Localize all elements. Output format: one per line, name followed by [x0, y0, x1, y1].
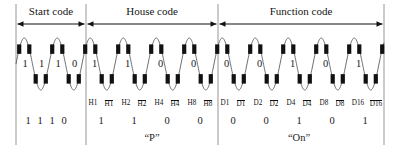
inline-bit-start-code: 0	[72, 59, 77, 70]
decoded-digit-function-code: 0	[261, 116, 271, 127]
burst-marker	[225, 44, 229, 54]
pin-label-D4-inverted: D4	[298, 100, 316, 109]
pin-label-D2-inverted: D2	[265, 100, 283, 109]
inline-bit-start-code: 1	[39, 59, 44, 70]
inline-bit-house-code: 0	[158, 59, 163, 70]
burst-marker	[380, 44, 384, 54]
pin-label-D16-inverted: D16	[367, 100, 385, 109]
decoded-digit-start-code: 0	[59, 116, 69, 127]
burst-marker	[209, 74, 213, 84]
decoded-digit-house-code: 0	[162, 116, 172, 127]
burst-marker	[44, 74, 48, 84]
burst-marker	[149, 44, 153, 54]
pin-label-H8-inverted: H8	[199, 100, 217, 109]
pin-label-D16: D16	[349, 100, 367, 107]
burst-marker	[133, 74, 137, 84]
decoded-digit-function-code: 1	[294, 116, 304, 127]
decoded-digit-start-code: 1	[47, 116, 57, 127]
burst-marker	[100, 74, 104, 84]
burst-marker	[176, 74, 180, 84]
span-arrowhead-start-code-1	[79, 21, 85, 27]
caption-house-code: “P”	[132, 133, 172, 144]
x10-waveform-figure: Start code House code Function code 1110…	[0, 0, 401, 149]
decoded-digit-house-code: 1	[96, 116, 106, 127]
burst-marker	[232, 74, 236, 84]
burst-marker	[341, 74, 345, 84]
inline-bit-function-code: 1	[290, 59, 295, 70]
burst-marker	[275, 74, 279, 84]
burst-marker	[215, 44, 219, 54]
span-arrowhead-start-code-0	[18, 21, 24, 27]
decoded-digit-house-code: 1	[129, 116, 139, 127]
burst-marker	[242, 74, 246, 84]
burst-marker	[27, 44, 31, 54]
inline-bit-function-code: 0	[224, 59, 229, 70]
span-arrowhead-function-code-1	[377, 21, 383, 27]
inline-bit-house-code: 0	[191, 59, 196, 70]
pin-label-H1-inverted: H1	[100, 100, 118, 109]
burst-marker	[83, 44, 87, 54]
burst-marker	[314, 44, 318, 54]
span-arrowhead-house-code-0	[88, 21, 94, 27]
decoded-digit-start-code: 1	[35, 116, 45, 127]
burst-marker	[347, 44, 351, 54]
burst-marker	[166, 74, 170, 84]
burst-marker	[110, 74, 114, 84]
pin-label-H2-inverted: H2	[133, 100, 151, 109]
burst-marker	[248, 44, 252, 54]
section-title-house-code: House code	[86, 6, 218, 17]
burst-marker	[364, 74, 368, 84]
burst-marker	[182, 44, 186, 54]
burst-marker	[281, 44, 285, 54]
burst-marker	[17, 44, 21, 54]
inline-bit-function-code: 0	[323, 59, 328, 70]
burst-marker	[93, 44, 97, 54]
section-span-arrows	[18, 21, 383, 27]
burst-marker	[357, 44, 361, 54]
pin-label-H4-inverted: H4	[166, 100, 184, 109]
inline-bit-house-code: 1	[125, 59, 130, 70]
section-title-function-code: Function code	[218, 6, 384, 17]
burst-marker	[291, 44, 295, 54]
burst-marker	[50, 44, 54, 54]
burst-marker	[258, 44, 262, 54]
burst-marker	[298, 74, 302, 84]
burst-marker	[192, 44, 196, 54]
burst-marker	[159, 44, 163, 54]
burst-marker	[331, 74, 335, 84]
pin-label-D1-inverted: D1	[232, 100, 250, 109]
inline-bit-function-code: 0	[257, 59, 262, 70]
inline-bit-start-code: 1	[23, 59, 28, 70]
waveform-canvas	[0, 0, 401, 149]
span-arrowhead-function-code-0	[220, 21, 226, 27]
burst-marker	[199, 74, 203, 84]
decoded-digit-start-code: 1	[23, 116, 33, 127]
burst-marker	[324, 44, 328, 54]
burst-marker	[143, 74, 147, 84]
inline-bit-start-code: 1	[56, 59, 61, 70]
burst-marker	[126, 44, 130, 54]
decoded-digit-function-code: 0	[327, 116, 337, 127]
burst-marker	[308, 74, 312, 84]
burst-marker	[116, 44, 120, 54]
pin-label-D8-inverted: D8	[331, 100, 349, 109]
section-title-start-code: Start code	[16, 6, 86, 17]
burst-marker	[60, 44, 64, 54]
inline-bit-function-code: 1	[356, 59, 361, 70]
decoded-digit-function-code: 0	[228, 116, 238, 127]
burst-marker	[265, 74, 269, 84]
decoded-digit-function-code: 1	[360, 116, 370, 127]
burst-marker	[67, 74, 71, 84]
decoded-digit-house-code: 0	[195, 116, 205, 127]
span-arrowhead-house-code-1	[211, 21, 217, 27]
burst-marker	[374, 74, 378, 84]
caption-function-code: “On”	[279, 133, 319, 144]
inline-bit-house-code: 1	[92, 59, 97, 70]
burst-marker	[34, 74, 38, 84]
burst-marker	[77, 74, 81, 84]
